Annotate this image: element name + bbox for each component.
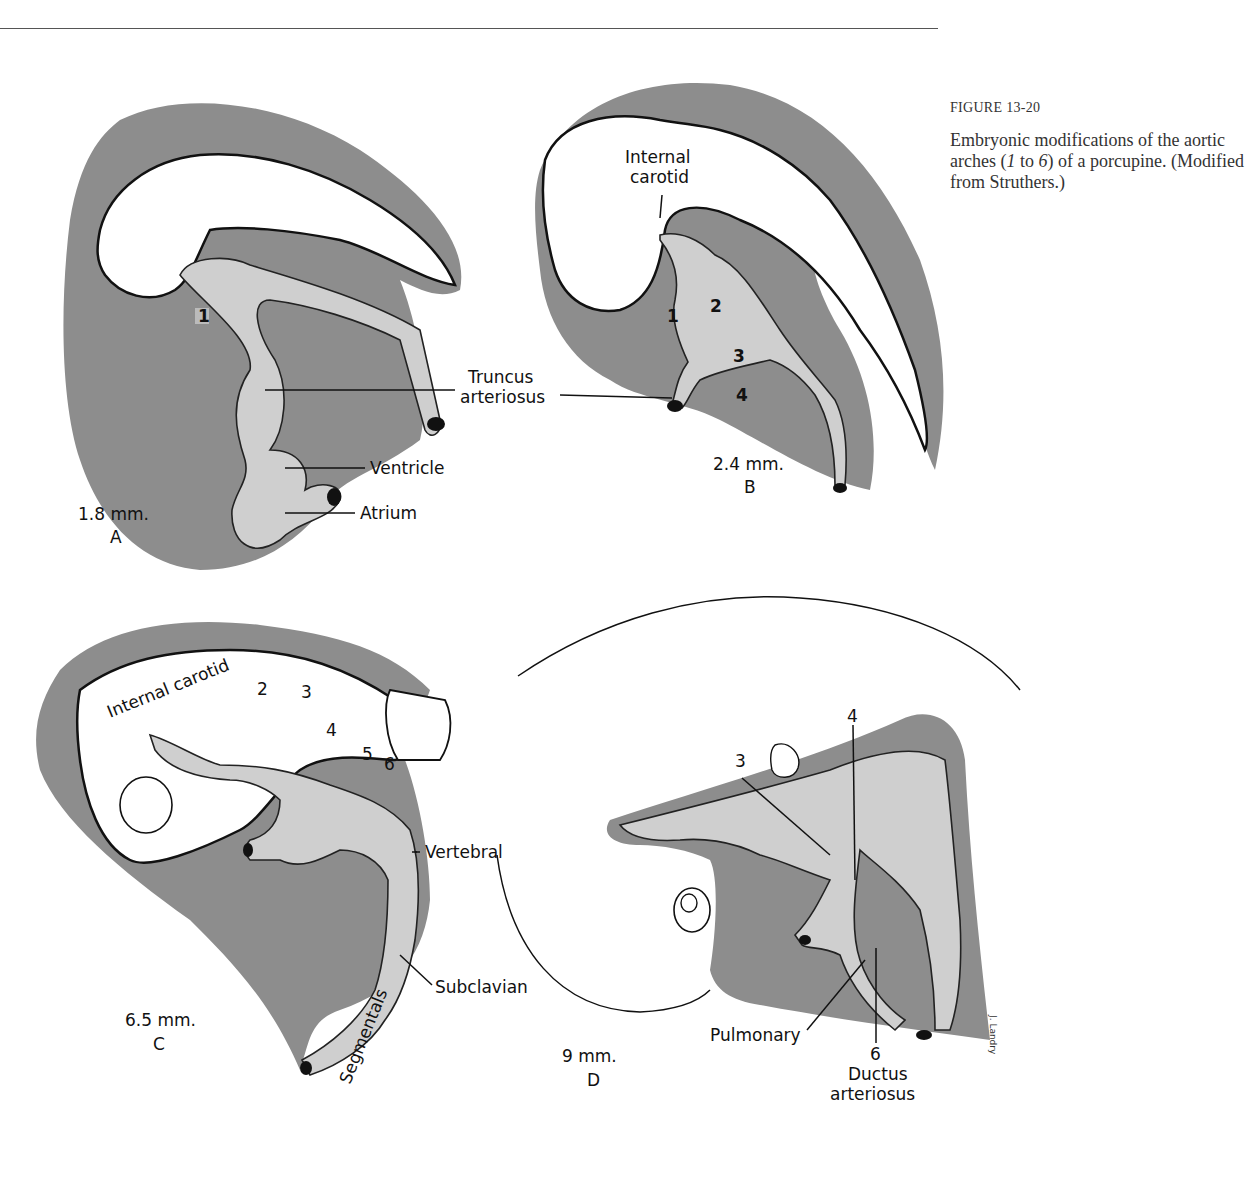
label-subclavian: Subclavian [435, 977, 528, 997]
aorta-opening-d [916, 1030, 932, 1040]
otic-inner-d [681, 894, 697, 912]
truncus-opening-b [667, 400, 683, 412]
label-atrium: Atrium [360, 503, 417, 523]
panel-c-letter: C [153, 1034, 165, 1054]
panel-a-letter: A [110, 527, 122, 547]
head-outline-d [518, 597, 1020, 690]
label-internal-carotid-b-1: Internal [625, 147, 691, 167]
arch-number-6-d: 6 [870, 1044, 881, 1064]
aorta-opening-b [833, 483, 847, 493]
panel-c-size: 6.5 mm. [125, 1010, 196, 1030]
panel-a: 1 Truncus arteriosus Ventricle Atrium 1.… [63, 103, 545, 570]
arch-number-3-d: 3 [735, 751, 746, 771]
aorta-opening-c [300, 1061, 312, 1075]
arch-number-1-b: 1 [667, 306, 679, 326]
eye-vesicle-d [771, 744, 799, 777]
arch-number-4-c: 4 [326, 720, 337, 740]
panel-c: Internal carotid 2 3 4 5 6 Vertebral Sub… [36, 622, 528, 1086]
illustrator-signature: J. Landry [988, 1014, 998, 1055]
label-ductus-1: Ductus [848, 1064, 908, 1084]
panel-d-letter: D [587, 1070, 600, 1090]
arch-number-6-c: 6 [384, 754, 395, 774]
figure-illustration: 1 Truncus arteriosus Ventricle Atrium 1.… [0, 0, 1250, 1186]
label-ventricle: Ventricle [370, 458, 444, 478]
panel-d-size: 9 mm. [562, 1046, 617, 1066]
panel-b-letter: B [744, 477, 756, 497]
arch-number-5-c: 5 [362, 744, 373, 764]
panel-b: Internal carotid 1 2 3 4 2.4 mm. B [535, 83, 943, 497]
arch-number-2-b: 2 [710, 296, 722, 316]
panel-b-size: 2.4 mm. [713, 454, 784, 474]
label-ductus-2: arteriosus [830, 1084, 915, 1104]
panel-d: 3 4 6 Pulmonary Ductus arteriosus J. Lan… [497, 597, 1020, 1104]
label-internal-carotid-b-2: carotid [630, 167, 689, 187]
truncus-opening-a [427, 417, 445, 431]
arch-number-4-b: 4 [736, 385, 748, 405]
arch-number-3-c: 3 [301, 682, 312, 702]
arch-number-4-d: 4 [847, 706, 858, 726]
otic-vesicle-c [120, 777, 172, 833]
arch-number-1-a: 1 [198, 306, 210, 326]
label-truncus-1: Truncus [467, 367, 534, 387]
label-truncus-2: arteriosus [460, 387, 545, 407]
label-vertebral: Vertebral [425, 842, 503, 862]
arch-number-2-c: 2 [257, 679, 268, 699]
pulmonary-opening-d [799, 935, 811, 945]
panel-a-size: 1.8 mm. [78, 504, 149, 524]
atrium-opening [327, 488, 341, 506]
face-outline-d [497, 855, 710, 1012]
neck-cut-c [386, 690, 450, 760]
label-pulmonary: Pulmonary [710, 1025, 801, 1045]
truncus-opening-c [243, 843, 253, 857]
arch-number-3-b: 3 [733, 346, 745, 366]
